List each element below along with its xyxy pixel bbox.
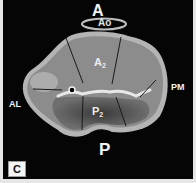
label-p2: P2: [92, 106, 103, 118]
label-a2: A2: [94, 57, 106, 69]
label-posteromedial: PM: [171, 83, 185, 92]
orifice-hole: [69, 87, 75, 93]
label-aorta: Ao: [98, 18, 111, 28]
panel-label: C: [8, 161, 26, 177]
figure-frame: A Ao A2 P2 P AL PM C: [0, 0, 196, 183]
label-posterior: P: [99, 141, 110, 158]
label-anterolateral: AL: [9, 100, 21, 109]
